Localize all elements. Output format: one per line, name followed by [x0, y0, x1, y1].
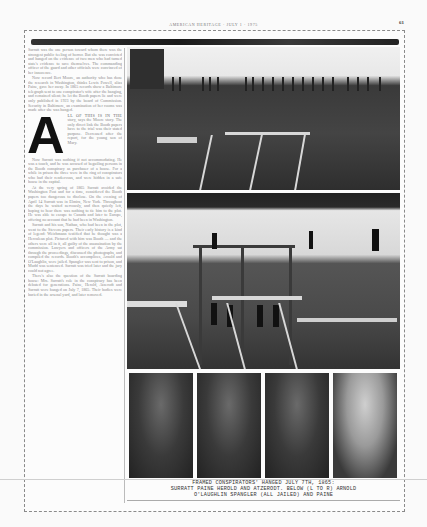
crowd-figure: [272, 77, 274, 91]
gallows-crossbeam: [193, 245, 295, 248]
crowd-figure: [367, 77, 369, 91]
dropcap-section: A LL OF THIS IS IN THE story, says the M…: [28, 114, 122, 158]
article-paragraph: At the very spring of 1865 Surratt avoid…: [28, 186, 122, 222]
paine-portrait: [333, 373, 397, 478]
wall-light: [297, 318, 397, 322]
crowd-figure: [332, 77, 334, 91]
photo-caption: FRAMED CONSPIRATORS' HANGED JULY 7TH, 18…: [127, 480, 400, 499]
crowd-figure: [292, 77, 294, 91]
crowd-figure: [312, 77, 314, 91]
soldier-figure: [372, 229, 379, 251]
crowd-figure: [217, 77, 219, 91]
gallows-platform: [212, 296, 302, 300]
gallows-crowd-photo: [127, 47, 400, 190]
top-rule: [31, 39, 399, 45]
caption-rule: [127, 500, 400, 501]
hanged-figure: [273, 305, 279, 327]
crowd-figure: [245, 77, 247, 91]
crowd-figure: [179, 77, 181, 91]
running-head: AMERICAN HERITAGE · JULY 1 · 1975: [0, 22, 427, 27]
support-post: [175, 303, 201, 369]
crowd-figure: [209, 77, 211, 91]
article-paragraph: Now record Bert Moore, an authority who …: [28, 76, 122, 112]
gallows-post: [294, 135, 306, 190]
crowd-figure: [172, 77, 174, 91]
article-paragraph: Now Surratt was nothing if not accommoda…: [28, 158, 122, 185]
gallows-hanging-photo: [127, 193, 400, 369]
crowd-figure: [202, 77, 204, 91]
column-rule: [124, 48, 125, 503]
dropcap-letter: A: [28, 114, 65, 158]
crowd-figure: [262, 77, 264, 91]
article-paragraph: Surratt was the one person toward whom t…: [28, 48, 122, 75]
oLaughlin-portrait: [197, 373, 261, 478]
arnold-portrait: [129, 373, 193, 478]
spangler-portrait: [265, 373, 329, 478]
article-text-column: Surratt was the one person toward whom t…: [28, 48, 122, 503]
gallows-beam: [225, 132, 310, 135]
article-paragraph: Surratt and his son, Nathan, who had bee…: [28, 223, 122, 273]
crowd-figure: [347, 77, 349, 91]
prison-tower: [130, 49, 164, 89]
dropcap-paragraph: story, says the Moore story. The only di…: [68, 117, 122, 145]
soldier-figure: [212, 233, 217, 249]
crowd-figure: [252, 77, 254, 91]
gallows-post: [241, 245, 244, 365]
support-post: [278, 303, 298, 369]
crowd-figure: [302, 77, 304, 91]
gallows-post: [199, 135, 213, 190]
soldier-figure: [309, 231, 313, 249]
hanged-figure: [257, 305, 263, 327]
gallows-post: [199, 245, 202, 365]
crowd-figure: [322, 77, 324, 91]
gallows-post: [249, 135, 263, 190]
article-paragraph: There's also the question of the Surratt…: [28, 274, 122, 297]
hanged-figure: [211, 303, 217, 325]
crowd-figure: [357, 77, 359, 91]
caption-line: O'LAUGHLIN SPANGLER (ALL JAILED) AND PAI…: [127, 492, 400, 498]
page-number: 61: [399, 20, 404, 25]
crowd-figure: [282, 77, 284, 91]
wagon: [157, 137, 197, 143]
crowd-figure: [379, 77, 381, 91]
